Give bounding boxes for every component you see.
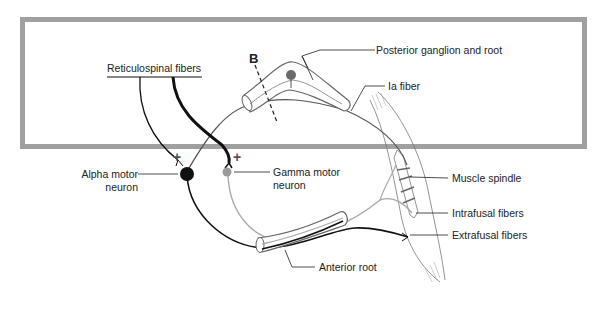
posterior-ganglion-label: Posterior ganglion and root <box>376 44 502 57</box>
ia-fiber <box>185 100 407 175</box>
gamma-motor-neuron <box>223 168 232 177</box>
gamma-line1: Gamma motor <box>273 166 340 179</box>
gamma-line2: neuron <box>273 179 340 192</box>
plus-alpha: + <box>173 149 181 165</box>
section-b-label: B <box>249 52 258 65</box>
plus-gamma: + <box>233 149 241 165</box>
anterior-root-label: Anterior root <box>319 261 377 274</box>
muscle-spindle <box>394 150 418 218</box>
illustration: + + <box>0 0 606 324</box>
gamma-motor-label: Gamma motor neuron <box>273 166 340 192</box>
intrafusal-label: Intrafusal fibers <box>452 207 524 220</box>
reticulospinal-fiber-thick <box>173 77 229 163</box>
ganglion-cell <box>286 70 296 80</box>
alpha-line2: neuron <box>78 181 138 194</box>
reticulospinal-label: Reticulospinal fibers <box>107 62 201 75</box>
alpha-motor-label: Alpha motor neuron <box>78 168 138 194</box>
ia-fiber-label: Ia fiber <box>388 80 420 93</box>
posterior-ganglion <box>244 62 350 112</box>
extrafusal-label: Extrafusal fibers <box>452 229 527 242</box>
alpha-motor-neuron <box>180 167 194 181</box>
muscle-spindle-label: Muscle spindle <box>452 172 521 185</box>
alpha-line1: Alpha motor <box>78 168 138 181</box>
